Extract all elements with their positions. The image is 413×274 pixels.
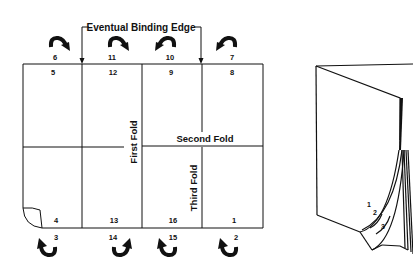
turn-arrow-icon — [155, 38, 174, 51]
folding-diagram: Eventual Binding Edge First Fold Second … — [0, 0, 413, 274]
page-number: 8 — [230, 68, 234, 77]
page-number: 13 — [110, 216, 118, 225]
back-page-number: 2 — [234, 233, 238, 242]
page-number: 9 — [169, 68, 173, 77]
turn-arrow-icon — [110, 38, 129, 51]
back-page-number: 11 — [108, 53, 116, 62]
back-page-number: 3 — [54, 233, 58, 242]
turn-arrow-icon — [51, 38, 70, 51]
press-sheet — [23, 64, 263, 228]
back-page-number: 15 — [169, 233, 177, 242]
page-number: 16 — [169, 216, 177, 225]
binding-edge-bracket: Eventual Binding Edge — [80, 22, 204, 65]
book-page-label: 2 — [373, 209, 377, 216]
book-page-label: 1 — [367, 201, 371, 208]
page-number: 1 — [232, 216, 236, 225]
binding-edge-label: Eventual Binding Edge — [87, 22, 196, 33]
back-page-number: 6 — [53, 53, 57, 62]
page-number: 4 — [54, 216, 59, 225]
folded-signature-illustration — [316, 64, 413, 254]
book-page-label: 3 — [381, 223, 385, 230]
turn-arrow-icon — [37, 238, 55, 255]
back-page-number: 14 — [109, 233, 118, 242]
first-fold-label: First Fold — [128, 120, 139, 163]
third-fold-label: Third Fold — [188, 165, 199, 212]
back-page-number: 7 — [230, 53, 234, 62]
page-number: 12 — [109, 68, 117, 77]
page-number: 5 — [51, 68, 55, 77]
back-page-number: 10 — [166, 53, 174, 62]
second-fold-label: Second Fold — [177, 133, 234, 144]
turn-arrow-icon — [216, 38, 235, 51]
